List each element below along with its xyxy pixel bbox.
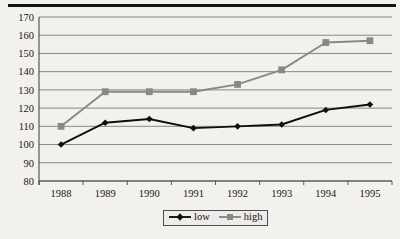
data-point-high xyxy=(146,88,153,95)
data-point-low xyxy=(146,116,153,123)
line-chart-svg: 8090100110120130140150160170 19881989199… xyxy=(0,0,400,239)
plot-area: 8090100110120130140150160170 19881989199… xyxy=(0,0,400,239)
data-point-high xyxy=(367,37,374,44)
y-tick-label: 80 xyxy=(24,176,35,187)
x-tick-label: 1993 xyxy=(271,188,292,199)
y-tick-label: 120 xyxy=(18,103,34,114)
data-point-low xyxy=(234,123,241,130)
data-point-high xyxy=(102,88,109,95)
data-point-high xyxy=(234,81,241,88)
x-tick-label: 1992 xyxy=(227,188,248,199)
data-point-high xyxy=(322,39,329,46)
x-axis-tick-labels: 19881989199019911992199319941995 xyxy=(51,188,381,199)
data-point-low xyxy=(323,107,330,114)
y-tick-label: 160 xyxy=(18,30,34,41)
data-point-high xyxy=(190,88,197,95)
legend-swatch-high xyxy=(219,212,241,222)
x-tick-label: 1988 xyxy=(51,188,72,199)
y-tick-label: 140 xyxy=(18,66,34,77)
y-tick-label: 150 xyxy=(18,48,34,59)
data-point-high xyxy=(58,123,65,130)
data-point-low xyxy=(102,119,109,126)
y-tick-label: 130 xyxy=(18,85,34,96)
data-point-low xyxy=(190,125,197,132)
x-axis-tickmarks xyxy=(39,181,392,185)
chart-legend: low high xyxy=(163,210,268,226)
legend-entry-low: low xyxy=(169,212,210,223)
legend-label-high: high xyxy=(244,212,263,223)
legend-swatch-low xyxy=(169,212,191,222)
series-markers-high xyxy=(58,37,374,129)
y-tick-label: 170 xyxy=(18,12,34,23)
y-axis-tick-labels: 8090100110120130140150160170 xyxy=(18,12,34,187)
x-tick-label: 1990 xyxy=(139,188,160,199)
legend-label-low: low xyxy=(194,212,210,223)
x-tick-label: 1991 xyxy=(183,188,204,199)
data-point-low xyxy=(278,121,285,128)
x-tick-label: 1989 xyxy=(95,188,116,199)
x-tick-label: 1995 xyxy=(359,188,380,199)
legend-entry-high: high xyxy=(219,212,263,223)
y-tick-label: 110 xyxy=(19,121,34,132)
x-tick-label: 1994 xyxy=(315,188,337,199)
data-point-low xyxy=(58,141,65,148)
y-tick-label: 90 xyxy=(24,158,35,169)
data-point-high xyxy=(278,66,285,73)
y-tick-label: 100 xyxy=(18,139,34,150)
chart-figure: 8090100110120130140150160170 19881989199… xyxy=(0,0,400,239)
data-point-low xyxy=(367,101,374,108)
